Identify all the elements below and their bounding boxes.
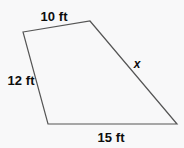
side-length-label-bottom: 15 ft: [97, 131, 124, 144]
unknown-side-label-x: x: [134, 58, 141, 70]
geometry-figure-canvas: 10 ft 12 ft 15 ft x: [0, 0, 184, 148]
side-length-label-left: 12 ft: [7, 74, 34, 87]
quadrilateral-outline: [23, 21, 177, 124]
side-length-label-top: 10 ft: [40, 10, 67, 23]
